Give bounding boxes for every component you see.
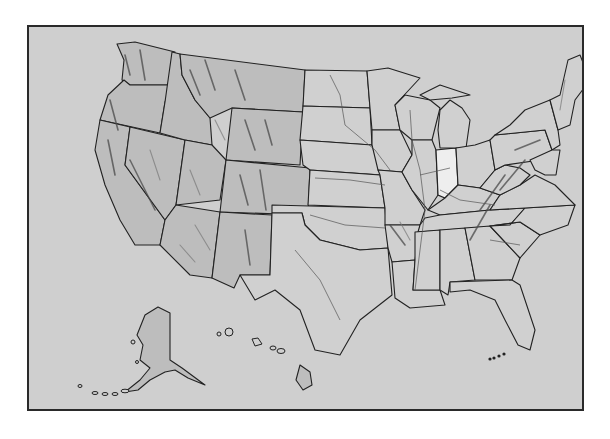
state-utah — [176, 140, 226, 205]
state-kansas — [308, 170, 385, 208]
florida-keys — [488, 352, 505, 360]
us-relief-map — [29, 27, 582, 409]
alaska-inset — [78, 307, 205, 396]
state-alaska — [125, 307, 205, 392]
hawaii-inset — [217, 328, 312, 390]
state-mississippi — [413, 230, 440, 290]
state-washington — [117, 42, 175, 85]
state-new-england — [550, 55, 582, 130]
state-north-dakota — [303, 70, 370, 108]
state-wyoming — [226, 108, 303, 165]
state-arizona — [160, 205, 220, 278]
state-florida — [450, 280, 535, 350]
big-island — [296, 365, 312, 390]
state-south-dakota — [300, 106, 372, 145]
map-frame — [27, 25, 584, 411]
